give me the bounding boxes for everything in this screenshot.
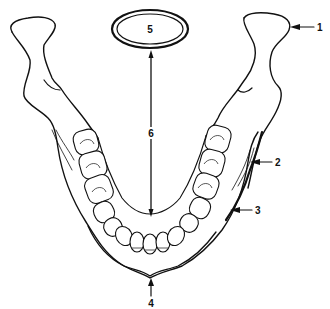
label-3: 3 (255, 205, 261, 216)
label-1: 1 (317, 22, 323, 33)
oval-cross-section: 5 (112, 10, 188, 48)
pointer-1: 1 (290, 22, 323, 33)
label-5: 5 (147, 24, 153, 35)
label-4: 4 (148, 298, 154, 309)
teeth (71, 123, 233, 254)
pointer-4: 4 (148, 278, 154, 309)
distance-arrow: 6 (144, 50, 158, 217)
label-6: 6 (148, 128, 154, 139)
mandible-diagram: 5 6 (0, 0, 330, 309)
label-2: 2 (275, 157, 281, 168)
